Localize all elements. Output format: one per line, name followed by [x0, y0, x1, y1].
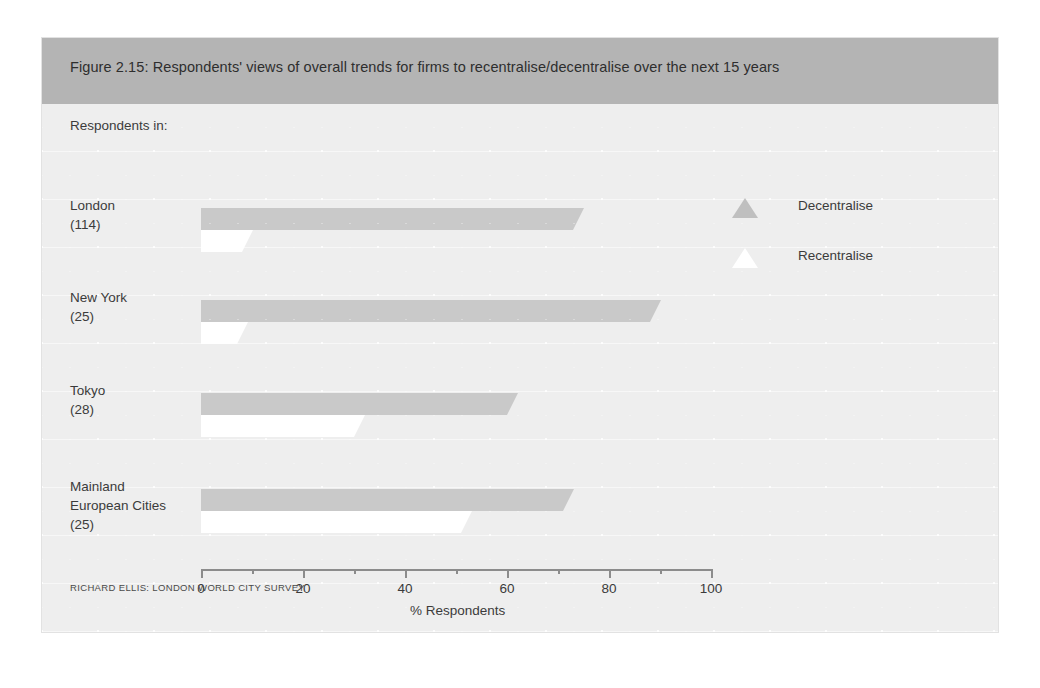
- x-tick-label-60: 60: [499, 581, 514, 596]
- figure-title: Figure 2.15: Respondents' views of overa…: [70, 59, 779, 75]
- x-tick-minor-10: [252, 569, 254, 574]
- x-tick-60: [507, 569, 509, 578]
- x-axis: 0 20 40 60 80 100 % Respondents: [42, 104, 998, 632]
- x-tick-minor-70: [558, 569, 560, 574]
- figure-title-bar: Figure 2.15: Respondents' views of overa…: [42, 38, 998, 104]
- x-tick-minor-30: [354, 569, 356, 574]
- x-tick-40: [405, 569, 407, 578]
- x-tick-minor-90: [660, 569, 662, 574]
- source-caption: RICHARD ELLIS: LONDON WORLD CITY SURVEY: [70, 582, 305, 593]
- x-tick-label-80: 80: [601, 581, 616, 596]
- figure-panel: Figure 2.15: Respondents' views of overa…: [42, 38, 998, 632]
- x-tick-80: [609, 569, 611, 578]
- x-tick-label-100: 100: [700, 581, 723, 596]
- x-tick-100: [711, 569, 713, 578]
- x-tick-20: [303, 569, 305, 578]
- x-axis-label: % Respondents: [410, 603, 505, 618]
- x-tick-minor-50: [456, 569, 458, 574]
- x-tick-0: [201, 569, 203, 578]
- chart-plot-area: Respondents in: London (114) New York (2…: [42, 104, 998, 632]
- page-root: Figure 2.15: Respondents' views of overa…: [0, 0, 1040, 688]
- x-tick-label-40: 40: [397, 581, 412, 596]
